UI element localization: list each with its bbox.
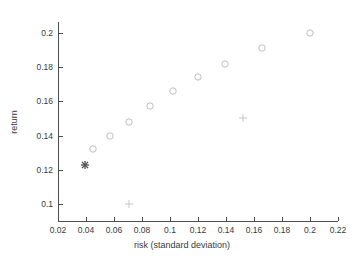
x-tick-mark — [310, 217, 311, 221]
y-tick-mark — [59, 101, 63, 102]
data-point-circle[interactable] — [125, 117, 134, 126]
x-tick-mark — [142, 217, 143, 221]
x-tick-label: 0.2 — [304, 225, 316, 235]
data-point-plus[interactable] — [125, 199, 134, 208]
data-point-circle[interactable] — [105, 131, 114, 140]
x-tick-label: 0.02 — [50, 225, 67, 235]
data-point-circle[interactable] — [220, 59, 229, 68]
x-tick-label: 0.16 — [246, 225, 263, 235]
data-point-circle[interactable] — [258, 44, 267, 53]
y-tick-label: 0.2 — [41, 28, 53, 38]
x-tick-label: 0.14 — [218, 225, 235, 235]
y-tick-label: 0.1 — [41, 199, 53, 209]
data-point-plus[interactable] — [238, 114, 247, 123]
y-axis-line — [58, 22, 59, 222]
plot-area[interactable]: 0.020.040.060.080.10.120.140.160.180.20.… — [58, 22, 338, 222]
x-tick-label: 0.06 — [106, 225, 123, 235]
x-tick-mark — [282, 217, 283, 221]
y-tick-label: 0.12 — [36, 165, 53, 175]
data-point-circle[interactable] — [89, 145, 98, 154]
x-tick-label: 0.22 — [330, 225, 347, 235]
y-tick-mark — [59, 170, 63, 171]
x-tick-mark — [86, 217, 87, 221]
x-tick-mark — [114, 217, 115, 221]
data-point-circle[interactable] — [194, 73, 203, 82]
x-axis-line — [58, 221, 338, 222]
y-axis-label: return — [9, 110, 19, 134]
x-tick-mark — [198, 217, 199, 221]
x-tick-mark — [254, 217, 255, 221]
y-tick-mark — [59, 136, 63, 137]
x-tick-mark — [170, 217, 171, 221]
x-tick-mark — [338, 217, 339, 221]
y-tick-mark — [59, 204, 63, 205]
x-tick-mark — [226, 217, 227, 221]
data-point-circle[interactable] — [146, 102, 155, 111]
data-point-asterisk[interactable] — [80, 160, 89, 169]
data-point-circle[interactable] — [168, 87, 177, 96]
x-tick-label: 0.04 — [78, 225, 95, 235]
x-tick-mark — [58, 217, 59, 221]
x-tick-label: 0.18 — [274, 225, 291, 235]
x-tick-label: 0.12 — [190, 225, 207, 235]
y-tick-label: 0.18 — [36, 62, 53, 72]
y-tick-label: 0.14 — [36, 131, 53, 141]
x-axis-label: risk (standard deviation) — [0, 240, 364, 250]
y-tick-mark — [59, 33, 63, 34]
x-tick-label: 0.08 — [134, 225, 151, 235]
scatter-plot-figure: 0.020.040.060.080.10.120.140.160.180.20.… — [0, 0, 364, 265]
data-point-circle[interactable] — [306, 28, 315, 37]
y-tick-label: 0.16 — [36, 96, 53, 106]
y-tick-mark — [59, 67, 63, 68]
x-tick-label: 0.1 — [164, 225, 176, 235]
